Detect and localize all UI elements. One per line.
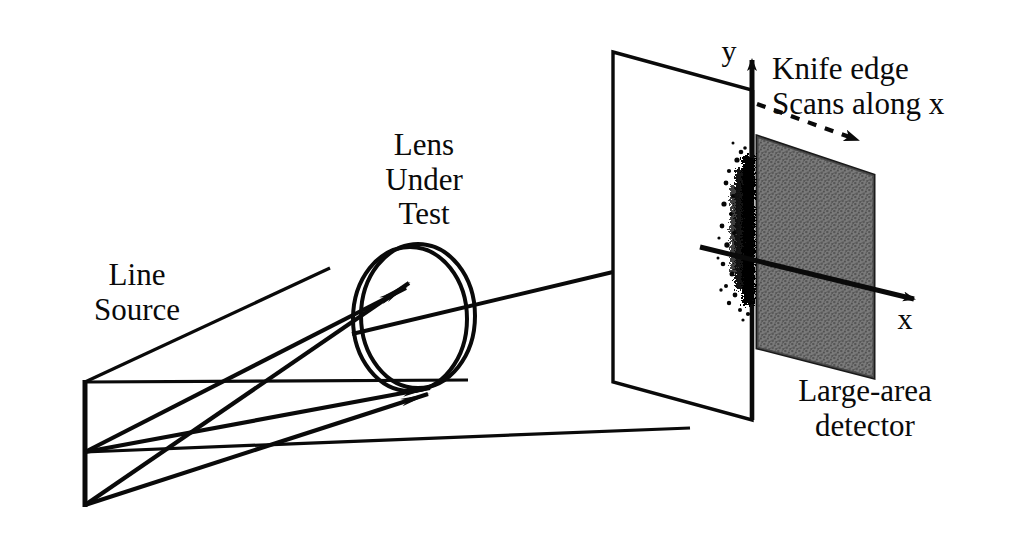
knife-edge-setup-diagram: Line Source Lens Under Test Knife edge S… (0, 0, 1033, 533)
large-area-detector-label: Large-area detector (760, 374, 970, 443)
x-axis-label: x (888, 302, 922, 336)
y-axis-label: y (712, 34, 746, 68)
lens-under-test-label: Lens Under Test (336, 128, 512, 232)
knife-edge-label: Knife edge Scans along x (772, 52, 1022, 121)
line-source-label: Line Source (48, 258, 226, 327)
optical-axis-ray (352, 272, 613, 334)
large-area-detector (757, 136, 877, 381)
